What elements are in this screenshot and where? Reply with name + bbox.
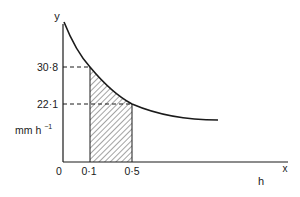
y-unit-main: mm h: [15, 124, 41, 136]
decay-curve: [64, 22, 218, 120]
x-axis-symbol: x: [283, 163, 288, 174]
y-axis-unit: mm h −1: [15, 123, 52, 136]
chart-canvas: y x h 30·8 22·1 mm h −1 0 0·1 0·5: [0, 0, 300, 197]
x-tick-0-5: 0·5: [124, 165, 139, 177]
x-tick-0-1: 0·1: [81, 165, 96, 177]
y-unit-superscript: −1: [44, 123, 52, 130]
y-tick-30-8: 30·8: [37, 61, 58, 73]
origin-label: 0: [56, 165, 62, 177]
x-axis-unit: h: [258, 175, 264, 187]
y-axis-symbol: y: [54, 10, 60, 22]
y-tick-22-1: 22·1: [37, 98, 58, 110]
